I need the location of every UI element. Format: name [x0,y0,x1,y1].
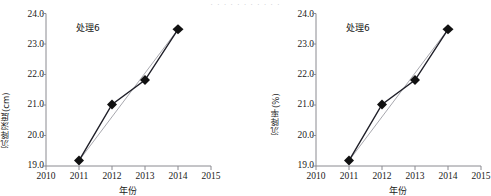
chart-panel-left: 沉降深度(cm) 24.0 23.0 22.0 21.0 20.0 19.0 [0,0,245,196]
x-tick-label: 2011 [70,171,89,181]
x-axis-tick-labels-right: 2010 2011 2012 2013 2014 2015 [245,171,491,185]
data-point-marker [140,75,150,85]
data-point-marker [344,156,354,166]
x-tick-label: 2013 [136,171,155,181]
data-point-marker [377,100,387,110]
y-tick-marks [42,14,46,167]
data-point-marker [74,156,84,166]
chart-panel-right: 沉降率(%) 24.0 23.0 22.0 21.0 20.0 19.0 [245,0,491,196]
x-axis-title-right: 年份 [389,184,407,196]
x-tick-label: 2014 [169,171,188,181]
series-annotation-right: 处理6 [346,21,370,34]
x-tick-label: 2010 [307,171,326,181]
trend-line [349,29,448,160]
x-tick-label: 2012 [373,171,392,181]
x-tick-label: 2015 [472,171,491,181]
data-point-marker [107,100,117,110]
data-point-marker [443,24,454,34]
series-annotation-left: 处理6 [76,21,100,34]
x-tick-label: 2014 [439,171,458,181]
x-axis-title-left: 年份 [119,184,137,196]
x-tick-label: 2011 [340,171,359,181]
trend-line [79,29,178,160]
data-point-marker [410,75,420,85]
x-tick-label: 2012 [103,171,122,181]
y-tick-marks [312,14,316,167]
x-tick-marks [46,166,211,170]
x-tick-label: 2015 [202,171,221,181]
figure-container: 沉降深度(cm) 24.0 23.0 22.0 21.0 20.0 19.0 [0,0,491,196]
data-point-marker [173,24,184,34]
plot-area-left [0,0,245,196]
x-axis-tick-labels-left: 2010 2011 2012 2013 2014 2015 [0,171,245,185]
x-tick-label: 2013 [406,171,425,181]
x-tick-marks [316,166,481,170]
x-tick-label: 2010 [37,171,56,181]
